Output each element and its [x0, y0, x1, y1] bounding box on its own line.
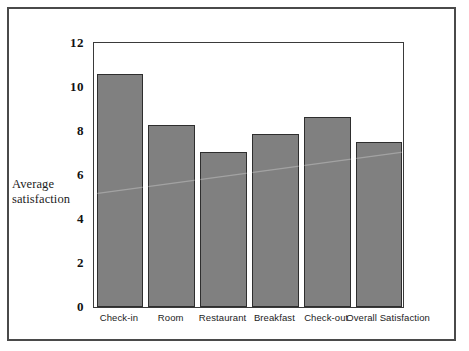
x-axis-label-overall-satisfaction: Overall Satisfaction	[346, 312, 410, 323]
bar-breakfast	[252, 134, 299, 307]
y-axis-tick-0: 0	[58, 299, 84, 315]
bar-check-out	[304, 117, 351, 307]
bar-room	[148, 125, 195, 307]
bar-chart-figure: Average satisfaction 12 10 8 6 4 2 0 Che…	[0, 0, 469, 351]
y-axis-tick-6: 6	[58, 167, 84, 183]
plot-inner	[94, 43, 403, 307]
bars-layer	[94, 43, 403, 307]
bar-check-in	[97, 74, 144, 307]
y-axis-tick-4: 4	[58, 211, 84, 227]
bar-restaurant	[200, 152, 247, 307]
bar-overall-satisfaction	[356, 142, 403, 307]
y-axis-title-line-2: satisfaction	[12, 192, 90, 207]
y-axis-tick-12: 12	[58, 35, 84, 51]
y-axis-tick-10: 10	[58, 79, 84, 95]
y-axis-tick-8: 8	[58, 123, 84, 139]
x-axis-category-labels: Check-inRoomRestaurantBreakfastCheck-out…	[93, 312, 404, 332]
y-axis-tick-2: 2	[58, 255, 84, 271]
plot-area	[93, 42, 404, 308]
